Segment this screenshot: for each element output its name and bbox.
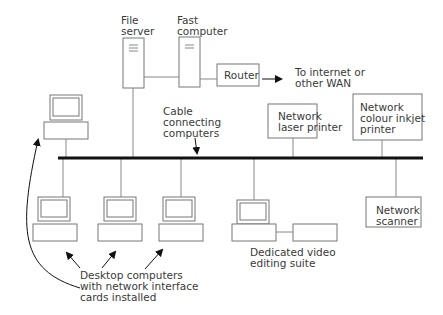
cable-label: Cable connecting computers [163, 106, 221, 139]
desktops-label: Desktop computers with network interface… [80, 270, 198, 303]
diagram-graphics [0, 0, 443, 315]
inkjet-printer-label: Network colour inkjet printer [360, 102, 425, 135]
video-suite-label: Dedicated video editing suite [250, 247, 336, 269]
laser-printer-label: Network laser printer [278, 111, 342, 133]
scanner-label: Network scanner [376, 205, 420, 227]
router-label: Router [224, 70, 259, 81]
fast-computer-label: Fast computer [177, 15, 228, 37]
network-diagram: File server Fast computer Router To inte… [0, 0, 443, 315]
wan-label: To internet or other WAN [295, 67, 365, 89]
file-server-label: File server [121, 15, 154, 37]
